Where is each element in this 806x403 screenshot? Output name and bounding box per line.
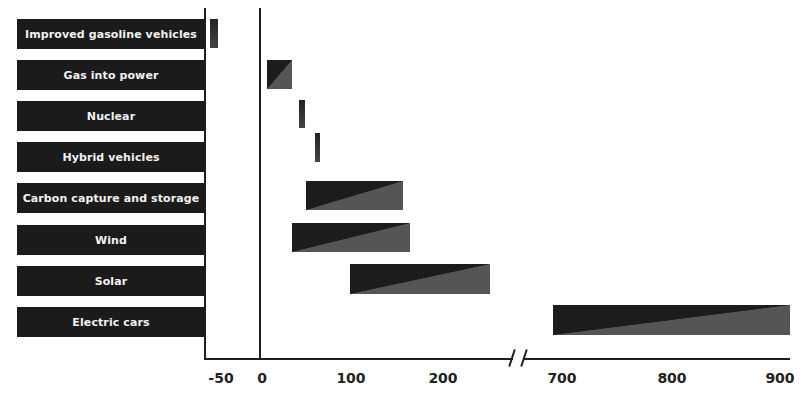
zero-reference-line <box>259 8 261 360</box>
bar-gas-into-power <box>267 60 292 89</box>
category-label-nuclear: Nuclear <box>17 101 205 131</box>
y-axis-line <box>204 8 206 360</box>
x-tick-label-700: 700 <box>547 370 576 386</box>
x-axis-line <box>204 358 790 360</box>
bar-improved-gasoline-vehicles <box>210 19 218 48</box>
bar-wind <box>292 223 410 252</box>
category-label-carbon-capture-and-storage: Carbon capture and storage <box>17 183 205 213</box>
category-label-electric-cars: Electric cars <box>17 307 205 337</box>
bar-hybrid-vehicles <box>315 133 320 162</box>
x-tick-label-0: 0 <box>257 370 267 386</box>
bar-solar <box>350 264 490 294</box>
category-label-hybrid-vehicles: Hybrid vehicles <box>17 142 205 172</box>
bar-electric-cars <box>553 305 790 335</box>
x-tick-label-900: 900 <box>765 370 794 386</box>
x-tick-label-100: 100 <box>336 370 365 386</box>
x-tick-label-800: 800 <box>657 370 686 386</box>
category-label-improved-gasoline-vehicles: Improved gasoline vehicles <box>17 19 205 49</box>
x-tick-label-200: 200 <box>428 370 457 386</box>
bar-carbon-capture-and-storage <box>306 181 403 210</box>
x-tick-label-neg50: -50 <box>208 370 233 386</box>
category-label-solar: Solar <box>17 266 205 296</box>
category-label-wind: Wind <box>17 225 205 255</box>
bar-nuclear <box>299 100 305 128</box>
category-label-gas-into-power: Gas into power <box>17 60 205 90</box>
